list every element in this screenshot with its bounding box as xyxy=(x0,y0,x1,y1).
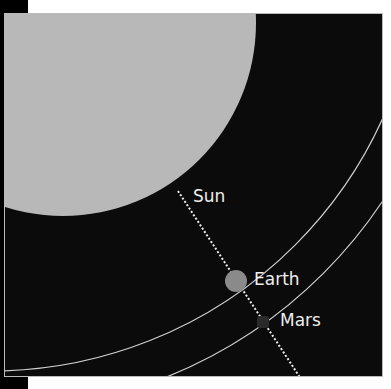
sun-label: Sun xyxy=(193,186,225,206)
mars-marker xyxy=(257,316,269,328)
earth-circle xyxy=(225,270,247,292)
mars-label: Mars xyxy=(280,310,321,330)
earth-label: Earth xyxy=(254,269,300,289)
solar-diagram: Sun Earth Mars xyxy=(4,13,383,377)
